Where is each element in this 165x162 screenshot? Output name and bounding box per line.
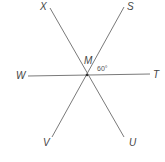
center-point-m [86, 74, 89, 77]
label-m: M [84, 55, 93, 66]
label-s: S [127, 1, 134, 12]
label-t: T [153, 69, 160, 80]
label-x: X [39, 1, 47, 12]
label-u: U [129, 137, 137, 148]
geometry-diagram: X S M 60° W T V U [0, 0, 165, 162]
label-w: W [16, 70, 27, 81]
angle-label: 60° [97, 65, 108, 72]
label-v: V [43, 137, 51, 148]
